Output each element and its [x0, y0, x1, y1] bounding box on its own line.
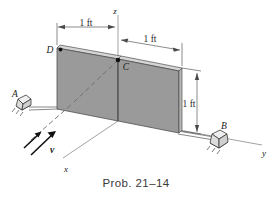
bearing-a-hatch-1	[12, 108, 15, 112]
dimension-left-label: 1 ft	[80, 18, 93, 28]
left-plate-face	[57, 48, 118, 121]
rod-b-lower	[178, 134, 214, 140]
figure-canvas: 1 ft 1 ft 1 ft	[0, 0, 272, 197]
left-plate	[57, 45, 121, 121]
y-axis-label: y	[261, 148, 266, 158]
point-label-b: B	[221, 121, 227, 131]
z-axis-label: z	[112, 6, 117, 16]
dimension-left-span: 1 ft	[57, 18, 115, 46]
x-axis-label: x	[63, 164, 68, 174]
bearing-b	[207, 130, 228, 154]
ext-line-height-top	[182, 68, 201, 71]
point-label-d: D	[46, 45, 54, 55]
point-c-marker	[116, 58, 121, 63]
dimension-height: 1 ft	[182, 68, 201, 134]
dimension-height-label: 1 ft	[183, 99, 196, 109]
arrowhead-height-bottom	[195, 125, 199, 132]
rod-a-lower	[29, 109, 58, 110]
velocity-label: v	[50, 145, 55, 155]
bearing-b-hatch-2	[212, 148, 215, 152]
arrowhead-right-1	[121, 39, 128, 43]
x-axis-line	[63, 121, 118, 158]
bearing-a-hatch-2	[16, 110, 19, 114]
arrowhead-left-1	[58, 25, 65, 29]
bearing-a-hatch-3	[20, 112, 23, 116]
arrowhead-height-top	[195, 73, 199, 80]
bearing-b-hatch-1	[207, 146, 210, 150]
figure-caption: Prob. 21–14	[102, 177, 169, 189]
arrowhead-right-2	[173, 48, 180, 52]
point-label-c: C	[123, 62, 130, 72]
dimension-right-label: 1 ft	[144, 34, 157, 44]
point-label-a: A	[11, 89, 18, 99]
arrowhead-left-2	[108, 25, 115, 29]
point-d-marker	[59, 48, 63, 52]
rod-b-upper	[178, 131, 214, 137]
problem-figure: 1 ft 1 ft 1 ft	[0, 0, 272, 197]
bearing-b-hatch-3	[217, 150, 220, 154]
